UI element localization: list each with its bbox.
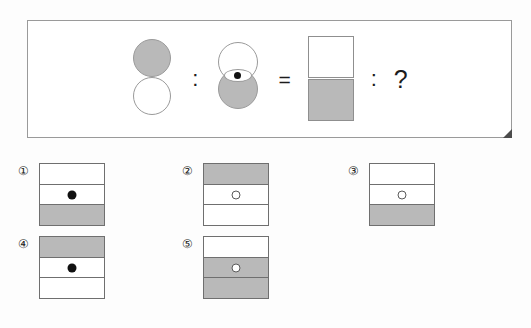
option-cell-middle: [370, 184, 434, 205]
option-label: ④: [18, 238, 32, 250]
analogy-row: : = : ?: [28, 21, 511, 137]
option-cell-top: [204, 164, 268, 184]
hollow-dot-icon: [232, 263, 241, 272]
answer-option-4[interactable]: ④: [18, 236, 105, 299]
gray-circle-icon: [133, 39, 171, 77]
answer-option-2[interactable]: ②: [182, 163, 269, 226]
question-panel: : = : ?: [27, 20, 512, 138]
white-square-icon: [308, 36, 354, 78]
option-cell-bottom: [204, 277, 268, 298]
term-a-stacked-circles: [131, 39, 175, 119]
option-cell-bottom: [40, 204, 104, 225]
option-label: ⑤: [182, 238, 196, 250]
option-cell-bottom: [40, 277, 104, 298]
term-b-overlapping-circles: [215, 42, 261, 116]
option-box[interactable]: [369, 163, 435, 226]
option-cell-middle: [204, 184, 268, 205]
hollow-dot-icon: [398, 190, 407, 199]
gray-square-icon: [308, 79, 354, 121]
ratio-colon-1: :: [192, 68, 198, 90]
hollow-dot-icon: [232, 190, 241, 199]
page-fold-corner: [503, 129, 512, 138]
equals-sign: =: [278, 69, 290, 90]
option-label: ②: [182, 165, 196, 177]
option-cell-middle: [204, 257, 268, 278]
option-cell-bottom: [370, 204, 434, 225]
option-cell-middle: [40, 257, 104, 278]
option-label: ①: [18, 165, 32, 177]
answer-option-3[interactable]: ③: [348, 163, 435, 226]
option-box[interactable]: [39, 163, 105, 226]
option-cell-bottom: [204, 204, 268, 225]
option-cell-middle: [40, 184, 104, 205]
option-label: ③: [348, 165, 362, 177]
option-box[interactable]: [203, 163, 269, 226]
ratio-colon-2: :: [371, 68, 377, 90]
unknown-answer-placeholder: ?: [394, 67, 408, 92]
option-cell-top: [370, 164, 434, 184]
option-cell-top: [204, 237, 268, 257]
filled-dot-icon: [68, 190, 77, 199]
filled-dot-icon: [68, 263, 77, 272]
option-cell-top: [40, 237, 104, 257]
answer-option-1[interactable]: ①: [18, 163, 105, 226]
option-cell-top: [40, 164, 104, 184]
answer-option-5[interactable]: ⑤: [182, 236, 269, 299]
option-box[interactable]: [39, 236, 105, 299]
option-box[interactable]: [203, 236, 269, 299]
white-circle-icon: [133, 77, 171, 115]
term-c-stacked-squares: [308, 36, 354, 122]
